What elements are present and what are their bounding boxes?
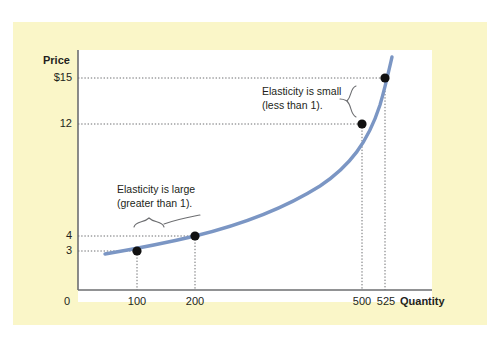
x-axis-title: Quantity (400, 295, 445, 307)
brace-elasticity-large (134, 218, 164, 227)
supply-curve (105, 57, 392, 254)
x-tick-label-525: 525 (368, 295, 404, 307)
data-point-525-15[interactable] (380, 73, 389, 82)
y-tick-label-3: 3 (34, 244, 72, 256)
x-tick-label-200: 200 (177, 295, 213, 307)
brace-elasticity-large-tail (164, 215, 200, 224)
data-point-200-4[interactable] (190, 231, 199, 240)
annotation-elasticity-small: Elasticity is small (less than 1). (262, 84, 341, 112)
x-tick-label-0: 0 (56, 295, 78, 307)
annotation-elasticity-small-line2: (less than 1). (262, 98, 341, 112)
y-tick-label-15: $15 (34, 71, 72, 83)
data-points (132, 73, 389, 255)
y-tick-label-12: 12 (34, 117, 72, 129)
y-tick-label-4: 4 (34, 229, 72, 241)
annotation-elasticity-small-line1: Elasticity is small (262, 84, 341, 98)
figure-root: Price Quantity $15 12 4 3 0 100 200 500 … (0, 0, 500, 350)
x-tick-label-100: 100 (119, 295, 155, 307)
y-axis-title: Price (43, 54, 70, 66)
data-point-500-12[interactable] (357, 119, 366, 128)
annotation-elasticity-large-line2: (greater than 1). (117, 196, 195, 210)
annotation-elasticity-large: Elasticity is large (greater than 1). (117, 182, 195, 210)
brace-elasticity-small (347, 86, 356, 117)
data-point-100-3[interactable] (132, 246, 141, 255)
annotation-elasticity-large-line1: Elasticity is large (117, 182, 195, 196)
